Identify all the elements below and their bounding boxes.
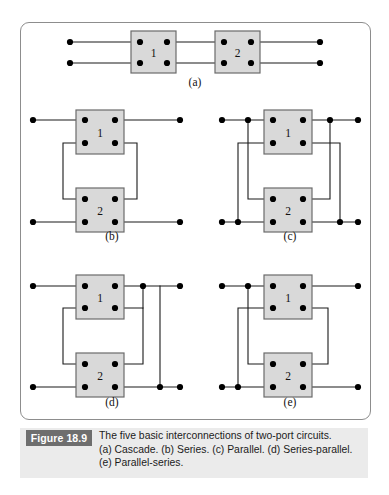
terminal-node bbox=[177, 219, 183, 225]
caption-line-3: (e) Parallel-series. bbox=[99, 456, 364, 470]
terminal-node bbox=[300, 117, 306, 123]
circuit-cascade: 12(a) bbox=[67, 31, 323, 89]
two-port-box-label: 2 bbox=[285, 205, 291, 217]
terminal-node bbox=[67, 39, 73, 45]
terminal-node bbox=[219, 219, 225, 225]
caption-line-2: (a) Cascade. (b) Series. (c) Parallel. (… bbox=[99, 443, 364, 457]
terminal-node bbox=[164, 39, 170, 45]
terminal-node bbox=[112, 361, 118, 367]
terminal-node bbox=[30, 384, 36, 390]
terminal-node bbox=[355, 384, 361, 390]
terminal-node bbox=[82, 283, 88, 289]
terminal-node bbox=[300, 384, 306, 390]
circuit-parallel: 12(c) bbox=[219, 110, 361, 243]
terminal-node bbox=[270, 219, 276, 225]
terminal-node bbox=[300, 140, 306, 146]
terminal-node bbox=[300, 361, 306, 367]
circuit-sublabel-a: (a) bbox=[189, 76, 202, 89]
terminal-node bbox=[30, 219, 36, 225]
two-port-box-label: 1 bbox=[285, 127, 291, 139]
terminal-node bbox=[137, 60, 143, 66]
terminal-node bbox=[112, 283, 118, 289]
terminal-node bbox=[245, 117, 251, 123]
terminal-node bbox=[270, 196, 276, 202]
terminal-node bbox=[355, 219, 361, 225]
figure-container: 12(a)12(b)12(c)12(d)12(e) Figure 18.9 Th… bbox=[0, 0, 389, 495]
terminal-node bbox=[219, 384, 225, 390]
terminal-node bbox=[355, 117, 361, 123]
terminal-node bbox=[112, 196, 118, 202]
terminal-node bbox=[177, 384, 183, 390]
two-port-box-label: 2 bbox=[235, 47, 241, 59]
terminal-node bbox=[317, 39, 323, 45]
terminal-node bbox=[219, 117, 225, 123]
terminal-node bbox=[235, 219, 241, 225]
terminal-node bbox=[82, 196, 88, 202]
two-port-box-label: 1 bbox=[151, 47, 157, 59]
terminal-node bbox=[140, 283, 146, 289]
terminal-node bbox=[355, 283, 361, 289]
two-port-box-label: 1 bbox=[97, 127, 103, 139]
terminal-node bbox=[327, 117, 333, 123]
circuit-parallel-series: 12(e) bbox=[219, 275, 361, 409]
terminal-node bbox=[112, 219, 118, 225]
terminal-node bbox=[82, 117, 88, 123]
circuit-sublabel-e: (e) bbox=[284, 396, 297, 409]
terminal-node bbox=[270, 361, 276, 367]
circuit-sublabel-c: (c) bbox=[284, 230, 297, 243]
two-port-box-label: 2 bbox=[97, 205, 103, 217]
terminal-node bbox=[300, 219, 306, 225]
terminal-node bbox=[164, 60, 170, 66]
terminal-node bbox=[221, 39, 227, 45]
terminal-node bbox=[82, 140, 88, 146]
terminal-node bbox=[270, 305, 276, 311]
terminal-node bbox=[30, 283, 36, 289]
terminal-node bbox=[245, 283, 251, 289]
terminal-node bbox=[221, 60, 227, 66]
terminal-node bbox=[270, 117, 276, 123]
terminal-node bbox=[137, 39, 143, 45]
terminal-node bbox=[300, 196, 306, 202]
terminal-node bbox=[177, 283, 183, 289]
figure-number-badge: Figure 18.9 bbox=[26, 430, 92, 446]
terminal-node bbox=[82, 361, 88, 367]
terminal-node bbox=[300, 283, 306, 289]
terminal-node bbox=[82, 219, 88, 225]
circuit-series: 12(b) bbox=[30, 110, 183, 243]
two-port-box-label: 2 bbox=[285, 370, 291, 382]
terminal-node bbox=[30, 117, 36, 123]
circuit-diagrams: 12(a)12(b)12(c)12(d)12(e) bbox=[0, 0, 389, 422]
terminal-node bbox=[112, 384, 118, 390]
terminal-node bbox=[270, 384, 276, 390]
circuit-sublabel-b: (b) bbox=[105, 230, 119, 243]
terminal-node bbox=[317, 60, 323, 66]
two-port-box-label: 2 bbox=[97, 370, 103, 382]
circuit-sublabel-d: (d) bbox=[105, 396, 119, 409]
terminal-node bbox=[300, 305, 306, 311]
terminal-node bbox=[235, 384, 241, 390]
terminal-node bbox=[270, 140, 276, 146]
terminal-node bbox=[157, 384, 163, 390]
terminal-node bbox=[82, 305, 88, 311]
terminal-node bbox=[112, 140, 118, 146]
terminal-node bbox=[248, 60, 254, 66]
terminal-node bbox=[112, 117, 118, 123]
terminal-node bbox=[112, 305, 118, 311]
caption-line-1: The five basic interconnections of two-p… bbox=[99, 429, 364, 443]
terminal-node bbox=[219, 283, 225, 289]
two-port-box-label: 1 bbox=[97, 292, 103, 304]
figure-caption: The five basic interconnections of two-p… bbox=[99, 429, 364, 470]
circuit-series-parallel: 12(d) bbox=[30, 275, 183, 409]
terminal-node bbox=[177, 117, 183, 123]
terminal-node bbox=[248, 39, 254, 45]
terminal-node bbox=[270, 283, 276, 289]
terminal-node bbox=[337, 219, 343, 225]
terminal-node bbox=[67, 60, 73, 66]
two-port-box-label: 1 bbox=[285, 292, 291, 304]
terminal-node bbox=[82, 384, 88, 390]
